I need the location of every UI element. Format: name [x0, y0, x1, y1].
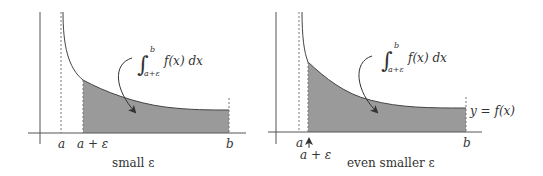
- right-integral-lower: a+ε: [388, 65, 404, 74]
- left-tick-a-eps: a + ε: [77, 137, 108, 151]
- right-panel: a a + ε b y = f(x) ∫ b a+ε f(x) dx even …: [268, 12, 515, 170]
- left-shaded-area: [83, 80, 229, 133]
- right-integral-upper: b: [394, 41, 399, 50]
- left-integral-lower: a+ε: [144, 69, 160, 78]
- improper-integral-diagram: a a + ε b ∫ b a+ε f(x) dx small ε a a + …: [0, 0, 543, 176]
- right-integral-label: ∫ b a+ε f(x) dx: [381, 41, 447, 74]
- right-tick-a-eps: a + ε: [300, 148, 331, 162]
- left-panel: a a + ε b ∫ b a+ε f(x) dx small ε: [28, 12, 246, 170]
- left-caption: small ε: [112, 156, 154, 170]
- right-integral-integrand: f(x) dx: [407, 51, 447, 65]
- right-caption: even smaller ε: [347, 156, 435, 170]
- left-integral-integrand: f(x) dx: [163, 54, 203, 68]
- left-tick-b: b: [226, 137, 234, 151]
- right-curve-label: y = f(x): [469, 104, 515, 118]
- left-tick-a: a: [58, 137, 65, 151]
- right-tick-b: b: [463, 136, 471, 150]
- left-integral-label: ∫ b a+ε f(x) dx: [137, 45, 203, 78]
- left-integral-upper: b: [150, 45, 155, 54]
